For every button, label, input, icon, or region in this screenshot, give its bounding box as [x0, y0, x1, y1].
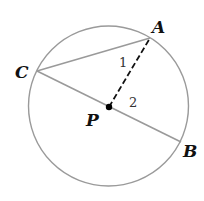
center-point-p: [106, 104, 112, 110]
angle-label-2: 2: [129, 95, 137, 110]
label-p: P: [85, 110, 100, 130]
label-a: A: [150, 17, 165, 37]
angle-label-1: 1: [119, 55, 127, 70]
label-c: C: [15, 62, 29, 82]
label-b: B: [182, 141, 197, 161]
circle-diagram: A C P B 1 2: [0, 0, 204, 201]
